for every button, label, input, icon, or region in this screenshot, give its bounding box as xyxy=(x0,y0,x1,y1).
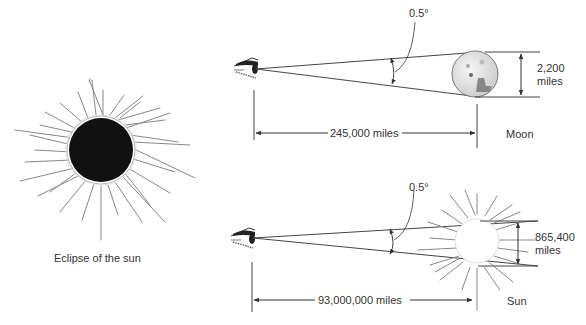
moon-diameter-unit: miles xyxy=(537,75,563,87)
moon-icon xyxy=(452,51,498,97)
moon-diameter-value: 2,200 xyxy=(537,62,565,74)
sun-distance-label: 93,000,000 miles xyxy=(316,294,404,306)
sun-diameter-unit: miles xyxy=(535,244,561,256)
eclipse-illustration xyxy=(15,79,195,240)
sun-label: Sun xyxy=(507,295,527,307)
eye-icon xyxy=(234,58,258,78)
moon-angle-label: 0.5° xyxy=(409,7,429,19)
eclipse-caption: Eclipse of the sun xyxy=(54,252,141,264)
sun-angle-label: 0.5° xyxy=(409,181,429,193)
eye-icon xyxy=(231,228,255,248)
sun-diameter-value: 865,400 xyxy=(535,231,575,243)
diagram-canvas xyxy=(0,0,586,325)
sun-disk xyxy=(455,219,499,263)
moon-distance-label: 245,000 miles xyxy=(328,127,401,139)
moon-label: Moon xyxy=(506,128,534,140)
eclipse-disk xyxy=(69,118,133,182)
